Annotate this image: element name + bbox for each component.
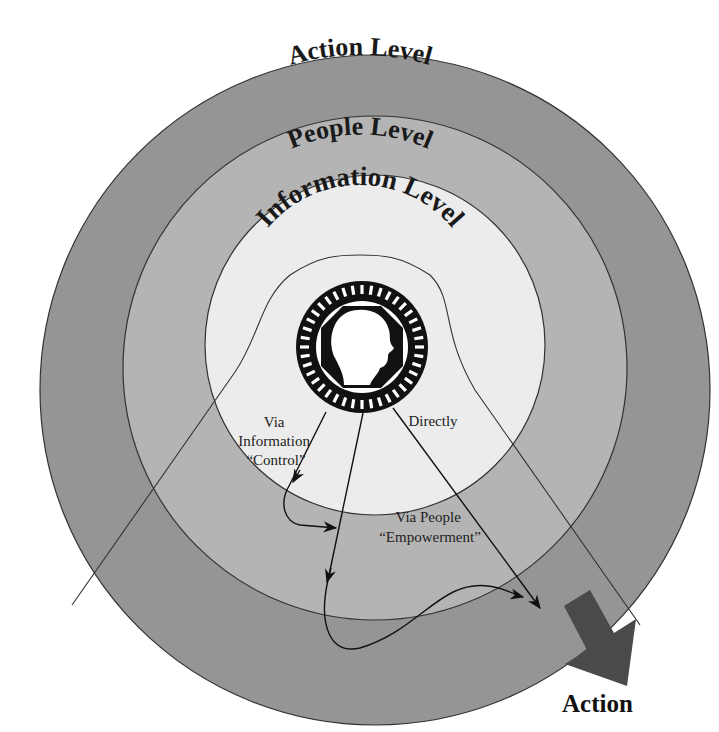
directly-label: Directly — [408, 413, 458, 429]
emblem-tick — [301, 355, 310, 356]
leader-emblem — [296, 281, 428, 413]
action-output-label: Action — [562, 690, 633, 718]
emblem-tick — [414, 355, 423, 356]
emblem-tick — [370, 399, 371, 408]
emblem-tick — [352, 399, 353, 408]
emblem-tick — [301, 337, 310, 338]
leadership-levels-diagram: Action Level People Level Information Le… — [0, 0, 719, 732]
emblem-tick — [370, 286, 371, 295]
emblem-tick — [352, 286, 353, 295]
emblem-tick — [414, 337, 423, 338]
